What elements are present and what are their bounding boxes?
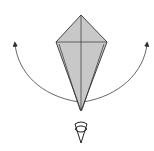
kite-shape [56, 15, 107, 111]
origami-diagram [0, 0, 154, 151]
kite [56, 15, 107, 111]
view-eye-icon [75, 122, 87, 143]
